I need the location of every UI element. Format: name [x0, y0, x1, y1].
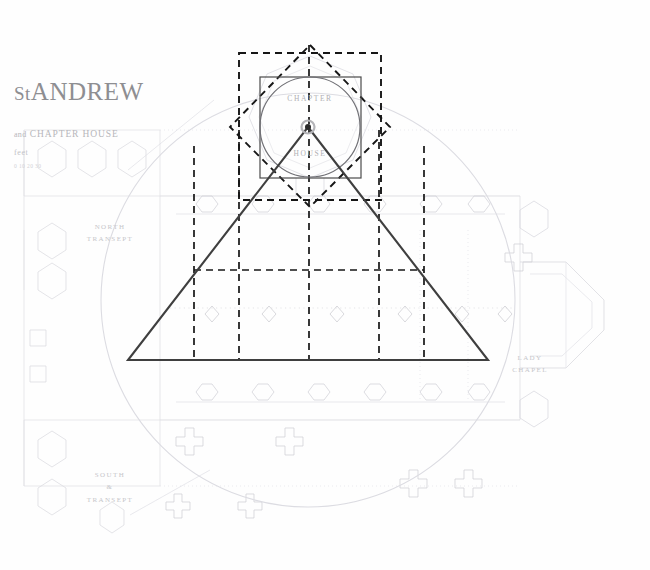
page-subtitle: and CHAPTER HOUSE: [14, 129, 234, 139]
page-subtitle-text: CHAPTER HOUSE: [30, 129, 119, 139]
plan-label-line: &: [65, 481, 155, 493]
plan-label-line: TRANSEPT: [65, 233, 155, 245]
drawing-page: StANDREW and CHAPTER HOUSE feet 0 10 20 …: [0, 0, 650, 570]
center-point-marker: [305, 124, 311, 130]
plan-label-line: TRANSEPT: [65, 494, 155, 506]
page-title-lead: St: [14, 83, 31, 104]
page-title: StANDREW: [14, 78, 234, 106]
page-title-rest: ANDREW: [31, 78, 144, 105]
title-block: StANDREW and CHAPTER HOUSE feet 0 10 20 …: [14, 78, 234, 169]
plan-label-lady-chapel: LADYCHAPEL: [485, 352, 575, 377]
page-subtitle-lead: and: [14, 130, 26, 139]
plan-label-line: LADY: [485, 352, 575, 364]
plan-label-line: CHAPEL: [485, 364, 575, 376]
plan-label-south-transept: SOUTH&TRANSEPT: [65, 469, 155, 506]
scale-label: feet: [14, 148, 234, 157]
plan-label-line: SOUTH: [65, 469, 155, 481]
chapter-label: CHAPTER: [274, 94, 346, 103]
scale-note: 0 10 20 30: [14, 163, 234, 169]
house-label: HOUSE: [282, 149, 338, 158]
plan-label-line: NORTH: [65, 221, 155, 233]
plan-label-north-transept: NORTHTRANSEPT: [65, 221, 155, 246]
